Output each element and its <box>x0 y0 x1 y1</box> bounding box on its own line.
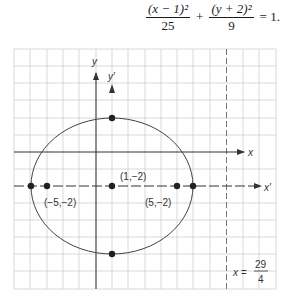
covertex-bottom-dot <box>109 251 115 257</box>
directrix-denominator: 4 <box>258 274 264 285</box>
ellipse-graph: x y x′ y′ (−5,−2) (1,−2) (5,−2) x = 29 4 <box>0 0 300 304</box>
y-prime-arrow-icon <box>109 84 115 93</box>
vertex-right-dot <box>190 183 196 189</box>
center-dot <box>109 183 115 189</box>
focus-left-dot <box>44 183 50 189</box>
grid <box>14 49 276 289</box>
vertex-left-dot <box>28 183 34 189</box>
covertex-top-dot <box>109 115 115 121</box>
x-prime-axis-label: x′ <box>263 182 272 193</box>
focus-right-label: (5,−2) <box>145 197 171 208</box>
y-axis-label: y <box>91 56 98 67</box>
y-prime-axis-label: y′ <box>107 71 116 82</box>
focus-right-dot <box>174 183 180 189</box>
x-axis-label: x <box>247 147 254 158</box>
center-label: (1,−2) <box>120 171 146 182</box>
focus-left-label: (−5,−2) <box>44 197 76 208</box>
directrix-lhs: x = <box>232 267 247 278</box>
directrix-label: x = 29 4 <box>232 259 268 285</box>
directrix-numerator: 29 <box>255 259 267 270</box>
